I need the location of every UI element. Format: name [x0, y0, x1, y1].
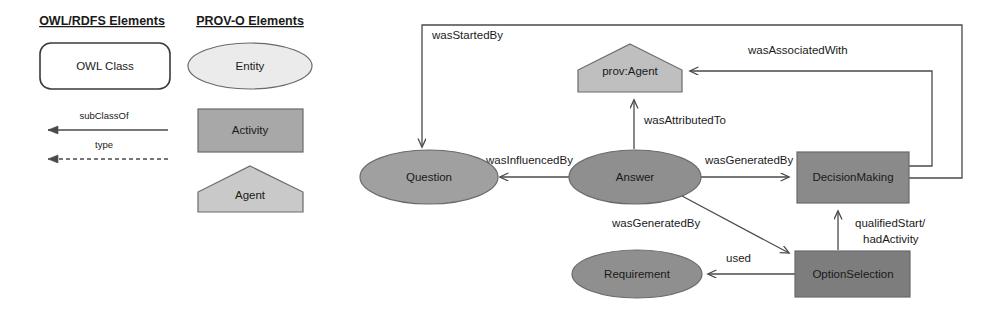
legend-entity-label: Entity: [236, 60, 265, 72]
legend-type-label: type: [95, 139, 113, 150]
edge-label-was-associated-with: wasAssociatedWith: [747, 44, 848, 56]
edge-label-had-activity: hadActivity: [863, 233, 919, 245]
edge-label-was-influenced-by: wasInfluencedBy: [485, 154, 573, 166]
diagram-edges: wasStartedBy wasAssociatedWith wasAttrib…: [422, 25, 962, 274]
edge-label-qualified-start: qualifiedStart/: [855, 217, 926, 229]
legend-provo-title: PROV-O Elements: [196, 14, 304, 28]
legend-activity-label: Activity: [232, 124, 269, 136]
node-option-selection-label: OptionSelection: [812, 268, 893, 280]
node-answer-label: Answer: [616, 171, 655, 183]
legend-owl-rdfs: OWL/RDFS Elements OWL Class subClassOf t…: [39, 14, 170, 159]
diagram-svg: OWL/RDFS Elements OWL Class subClassOf t…: [0, 0, 999, 311]
node-option-selection[interactable]: OptionSelection: [795, 251, 910, 297]
edge-label-was-generated-by-option: wasGeneratedBy: [611, 217, 700, 229]
legend-subclassof-label: subClassOf: [79, 110, 128, 121]
node-question-label: Question: [406, 171, 452, 183]
legend-prov-o: PROV-O Elements Entity Activity Agent: [188, 14, 312, 212]
edge-label-used: used: [726, 252, 751, 264]
legend-owl-class-label: OWL Class: [76, 60, 134, 72]
node-question[interactable]: Question: [360, 150, 498, 204]
node-requirement[interactable]: Requirement: [572, 250, 702, 298]
edge-label-was-generated-by-decision: wasGeneratedBy: [704, 154, 793, 166]
prov-o-diagram-canvas: OWL/RDFS Elements OWL Class subClassOf t…: [0, 0, 999, 311]
node-prov-agent[interactable]: prov:Agent: [578, 44, 682, 92]
legend-agent-label: Agent: [235, 189, 266, 201]
edge-label-was-attributed-to: wasAttributedTo: [643, 114, 726, 126]
node-prov-agent-label: prov:Agent: [602, 65, 658, 77]
node-requirement-label: Requirement: [604, 268, 671, 280]
node-answer[interactable]: Answer: [569, 150, 701, 204]
node-decision-making-label: DecisionMaking: [812, 171, 893, 183]
legend-owl-title: OWL/RDFS Elements: [39, 14, 165, 28]
diagram-nodes: prov:Agent Question Answer DecisionMakin…: [360, 44, 910, 298]
edge-label-was-started-by: wasStartedBy: [431, 29, 503, 41]
node-decision-making[interactable]: DecisionMaking: [797, 152, 909, 203]
